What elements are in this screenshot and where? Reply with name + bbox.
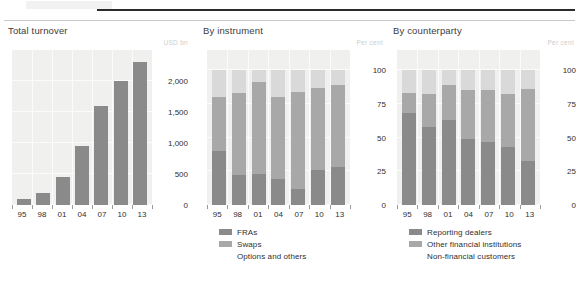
- bar-segment: [331, 70, 345, 85]
- x-tick-mark: [289, 205, 290, 209]
- bar: [521, 70, 535, 205]
- y-tick-label: 500: [175, 170, 188, 179]
- panel-total-turnover: Total turnover USD bn 05001,0001,5002,00…: [4, 24, 194, 282]
- bar: [36, 193, 50, 205]
- bar-segment: [442, 85, 456, 120]
- bar-segment: [252, 70, 266, 82]
- x-tick-mark: [309, 205, 310, 209]
- y-tick-label: 100: [373, 66, 386, 75]
- x-tick-label: 01: [441, 210, 455, 219]
- plot-area: [207, 50, 350, 205]
- x-tick-label: 10: [502, 210, 516, 219]
- x-tick-mark: [52, 205, 53, 209]
- bar: [422, 70, 436, 205]
- x-tick-mark: [12, 205, 13, 209]
- bar-segment: [271, 179, 285, 205]
- bar-segment: [212, 151, 226, 205]
- legend: Reporting dealersOther financial institu…: [409, 226, 521, 262]
- x-tick-label: 01: [251, 210, 265, 219]
- bar-segment: [422, 94, 436, 126]
- x-tick-mark: [152, 205, 153, 209]
- legend: FRAsSwapsOptions and others: [219, 226, 306, 262]
- y-tick-label: 50: [377, 133, 386, 142]
- x-tick-mark: [350, 205, 351, 209]
- bar-segment: [75, 146, 89, 205]
- x-tick-mark: [540, 205, 541, 209]
- bar-group: [397, 50, 540, 205]
- panel-title: Total turnover: [4, 24, 194, 38]
- bar-segment: [271, 97, 285, 179]
- legend-label: Non-financial customers: [427, 252, 515, 261]
- bar-segment: [461, 139, 475, 205]
- bar: [442, 70, 456, 205]
- legend-label: Swaps: [237, 240, 262, 249]
- x-tick-mark: [479, 205, 480, 209]
- plot-area: [12, 50, 152, 205]
- x-tick-marks: [207, 205, 350, 209]
- bar-segment: [36, 193, 50, 205]
- bar: [481, 70, 495, 205]
- legend-label: Options and others: [237, 252, 306, 261]
- bar: [271, 70, 285, 205]
- bar-segment: [521, 161, 535, 205]
- x-tick-mark: [92, 205, 93, 209]
- x-tick-label: 10: [312, 210, 326, 219]
- legend-item: Non-financial customers: [409, 250, 521, 262]
- x-tick-mark: [520, 205, 521, 209]
- bar-segment: [94, 106, 108, 205]
- unit-label: Per cent: [356, 39, 383, 46]
- x-tick-mark: [248, 205, 249, 209]
- legend-label: Reporting dealers: [427, 228, 492, 237]
- y-tick-label: 25: [567, 167, 576, 176]
- legend-item: FRAs: [219, 226, 306, 238]
- bar-segment: [271, 70, 285, 97]
- x-tick-mark: [397, 205, 398, 209]
- bar-segment: [311, 88, 325, 170]
- bar-segment: [212, 70, 226, 97]
- x-axis: 95980104071013: [207, 210, 350, 219]
- bar-group: [207, 50, 350, 205]
- x-tick-label: 13: [333, 210, 347, 219]
- bar-segment: [442, 70, 456, 85]
- bar-segment: [481, 90, 495, 141]
- x-tick-label: 07: [482, 210, 496, 219]
- bar-segment: [291, 70, 305, 92]
- y-tick-label: 1,000: [168, 139, 188, 148]
- y-tick-label: 50: [567, 133, 576, 142]
- x-tick-label: 98: [231, 210, 245, 219]
- x-tick-mark: [417, 205, 418, 209]
- x-tick-mark: [227, 205, 228, 209]
- bar-segment: [521, 89, 535, 160]
- bar-segment: [114, 81, 128, 205]
- bar: [252, 70, 266, 205]
- bar: [114, 81, 128, 205]
- bar: [212, 70, 226, 205]
- x-tick-label: 04: [75, 210, 89, 219]
- bar-segment: [402, 93, 416, 113]
- x-tick-mark: [330, 205, 331, 209]
- bar: [501, 70, 515, 205]
- x-tick-mark: [458, 205, 459, 209]
- x-tick-mark: [268, 205, 269, 209]
- y-axis: 0255075100: [544, 50, 578, 205]
- x-tick-label: 01: [55, 210, 69, 219]
- legend-swatch: [219, 241, 232, 247]
- y-tick-label: 100: [563, 66, 576, 75]
- x-tick-label: 04: [271, 210, 285, 219]
- legend-item: Other financial institutions: [409, 238, 521, 250]
- legend-label: FRAs: [237, 228, 257, 237]
- bar: [291, 70, 305, 205]
- bar-segment: [422, 127, 436, 205]
- x-tick-mark: [132, 205, 133, 209]
- y-tick-label: 2,000: [168, 77, 188, 86]
- y-axis: 05001,0001,5002,000: [156, 50, 190, 205]
- x-tick-mark: [72, 205, 73, 209]
- legend-swatch: [219, 253, 232, 259]
- x-tick-mark: [207, 205, 208, 209]
- bar: [461, 70, 475, 205]
- legend-item: Swaps: [219, 238, 306, 250]
- bar: [75, 146, 89, 205]
- x-tick-label: 13: [523, 210, 537, 219]
- x-tick-label: 98: [35, 210, 49, 219]
- legend-swatch: [409, 253, 422, 259]
